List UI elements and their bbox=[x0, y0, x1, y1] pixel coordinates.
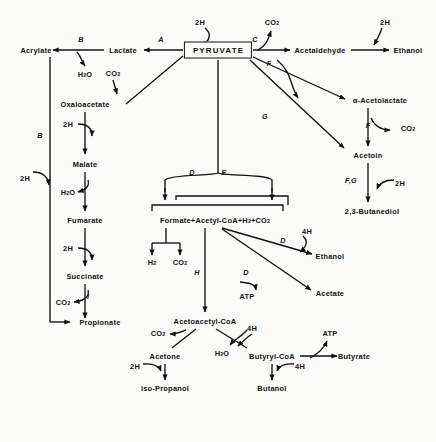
node-co2-acetone: CO2 bbox=[151, 329, 166, 338]
node-ethanol-mid[interactable]: Ethanol bbox=[316, 252, 345, 261]
cofactor-2h-ethanol: 2H bbox=[380, 18, 390, 27]
node-acetaldehyde[interactable]: Acetaldehyde bbox=[294, 46, 345, 55]
enzyme-label-d2: D bbox=[280, 236, 285, 245]
node-acrylate[interactable]: Acrylate bbox=[20, 46, 51, 55]
node-acetoin[interactable]: Acetoin bbox=[354, 151, 383, 160]
node-oxaloacetate[interactable]: Oxaloacetate bbox=[60, 100, 109, 109]
enzyme-label-f2: F bbox=[366, 121, 371, 130]
enzyme-label-d: D bbox=[189, 168, 194, 177]
cofactor-2h-lactate: 2H bbox=[195, 18, 205, 27]
node-acetone[interactable]: Acetone bbox=[150, 352, 181, 361]
node-butanediol[interactable]: 2,3-Butanediol bbox=[345, 207, 399, 216]
node-water-malate: H2O bbox=[61, 188, 76, 197]
node-butyrate[interactable]: Butyrate bbox=[338, 352, 370, 361]
node-acetate[interactable]: Acetate bbox=[316, 289, 344, 298]
cofactor-2h-acetoin: 2H bbox=[395, 179, 405, 188]
enzyme-label-g: G bbox=[262, 112, 268, 121]
enzyme-label-h: H bbox=[194, 268, 199, 277]
node-atp-butyrate: ATP bbox=[323, 329, 338, 338]
enzyme-label-i: I bbox=[87, 292, 89, 301]
enzyme-label-b-rail: B bbox=[37, 131, 42, 140]
node-fumarate[interactable]: Fumarate bbox=[67, 216, 102, 225]
node-butanol[interactable]: Butanol bbox=[257, 384, 286, 393]
enzyme-label-fg: F,G bbox=[345, 176, 357, 185]
node-co2-succinate: CO2 bbox=[56, 298, 71, 307]
cofactor-4h-butyryl: 4H bbox=[247, 324, 257, 333]
node-pyruvate[interactable]: PYRUVATE bbox=[184, 42, 252, 59]
cofactor-2h-fumarate: 2H bbox=[63, 244, 73, 253]
node-propionate[interactable]: Propionate bbox=[79, 318, 120, 327]
enzyme-label-f: F bbox=[267, 59, 272, 68]
node-isopropanol[interactable]: iso-Propanol bbox=[141, 384, 189, 393]
enzyme-label-c: C bbox=[252, 35, 257, 44]
node-butyryl-coa[interactable]: Butyryl-CoA bbox=[249, 352, 295, 361]
node-formate-pool[interactable]: Formate+Acetyl-CoA+H2+CO2 bbox=[160, 216, 270, 225]
node-succinate[interactable]: Succinate bbox=[66, 272, 103, 281]
node-acetoacetyl-coa[interactable]: Acetoacetyl-CoA bbox=[174, 317, 237, 326]
cofactor-2h-oxaloacetate: 2H bbox=[63, 120, 73, 129]
enzyme-label-e: E bbox=[221, 168, 226, 177]
node-co2-pyruvate: CO2 bbox=[265, 18, 280, 27]
cofactor-4h-ethanol: 4H bbox=[302, 227, 312, 236]
cofactor-2h-isopropanol: 2H bbox=[130, 362, 140, 371]
node-co2-acetolactate: CO2 bbox=[401, 124, 416, 133]
node-water-butyryl: H2O bbox=[215, 349, 230, 358]
node-co2-oxaloacetate: CO2 bbox=[106, 69, 121, 78]
enzyme-label-d3: D bbox=[243, 268, 248, 277]
enzyme-label-b: B bbox=[78, 35, 83, 44]
node-h2-pool: H2 bbox=[148, 258, 157, 267]
node-water-lactate: H2O bbox=[78, 70, 93, 79]
node-alpha-acetolactate[interactable]: α-Acetolactate bbox=[353, 96, 407, 105]
node-lactate[interactable]: Lactate bbox=[109, 46, 137, 55]
enzyme-label-a: A bbox=[158, 35, 163, 44]
pathway-diagram-canvas: PYRUVATE Acrylate Lactate Acetaldehyde E… bbox=[0, 0, 436, 442]
cofactor-2h-acrylate: 2H bbox=[20, 174, 30, 183]
node-malate[interactable]: Malate bbox=[73, 160, 98, 169]
node-co2-pool: CO2 bbox=[173, 258, 188, 267]
node-atp-acetate: ATP bbox=[240, 292, 255, 301]
node-ethanol-top[interactable]: Ethanol bbox=[394, 46, 423, 55]
cofactor-4h-butanol: 4H bbox=[295, 362, 305, 371]
